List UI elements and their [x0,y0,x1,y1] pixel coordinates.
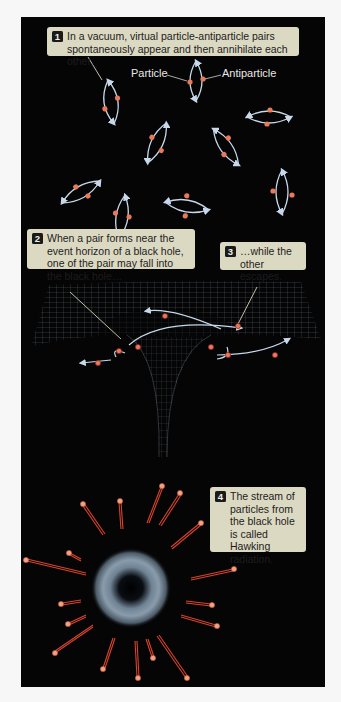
hawking-radiation-illustration [21,17,325,687]
step-number-2: 2 [32,233,43,244]
hawking-radiation [23,483,236,680]
caption-2: 2 When a pair forms near the event horiz… [27,229,195,269]
step-number-4: 4 [215,491,226,502]
diagram-panel: 1 In a vacuum, virtual particle-antipart… [21,17,325,687]
particle-label: Particle [131,67,168,79]
caption-3: 3 …while the other escapes. [220,242,306,270]
caption-4: 4 The stream of particles from the black… [210,487,306,552]
step-number-1: 1 [52,31,63,42]
step-number-3: 3 [225,246,236,257]
virtual-pairs [57,57,294,240]
caption-1: 1 In a vacuum, virtual particle-antipart… [47,27,299,56]
antiparticle-label: Antiparticle [222,67,276,79]
spacetime-grid [31,275,321,457]
